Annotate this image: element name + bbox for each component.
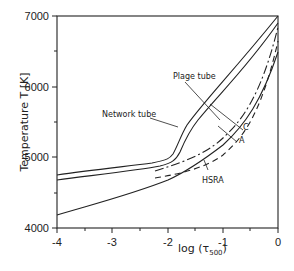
plot-frame: [57, 16, 278, 228]
y-axis-title: Temperature T [K]: [18, 72, 31, 172]
x-axis-ticks: [57, 228, 278, 233]
leader-c: [210, 104, 243, 130]
leader-network: [150, 118, 178, 127]
x-tick-0: 0: [275, 236, 281, 248]
curve-plage-tube: [57, 16, 278, 175]
temperature-chart: 7000 6000 5000 4000 -4 -3 -2 -1 0 Temper…: [0, 0, 294, 271]
x-tick-m3: -3: [107, 236, 117, 248]
label-a: A: [239, 136, 245, 145]
label-network-tube: Network tube: [102, 110, 156, 119]
x-tick-m2: -2: [163, 236, 173, 248]
curve-hsra: [57, 52, 278, 215]
label-plage-tube: Plage tube: [173, 72, 216, 81]
curve-network-tube: [57, 23, 278, 180]
y-tick-4000: 4000: [25, 222, 49, 234]
y-axis-ticks: [52, 16, 57, 228]
x-tick-m4: -4: [52, 236, 62, 248]
label-hsra: HSRA: [202, 176, 224, 185]
label-c: C: [243, 123, 249, 132]
y-tick-7000: 7000: [25, 10, 49, 22]
